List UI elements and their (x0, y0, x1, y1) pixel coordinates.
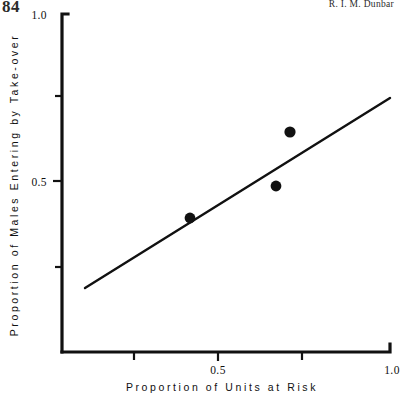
x-axis-title: Proportion of Units at Risk (126, 381, 318, 393)
data-point (284, 126, 295, 137)
data-point (271, 181, 282, 192)
regression-line (85, 98, 390, 288)
x-tick-label-0.5: 0.5 (210, 364, 226, 376)
y-axis-title: Proportion of Males Entering by Take-ove… (8, 34, 20, 337)
x-tick-label-1.0: 1.0 (384, 364, 400, 376)
figure-page: 84 R. I. M. Dunbar 1.0 0.5 0.5 1.0 (0, 0, 400, 399)
y-tick-label-0.5: 0.5 (31, 176, 47, 188)
y-tick-label-1.0: 1.0 (31, 9, 47, 21)
x-axis-line (62, 344, 390, 352)
plot-svg: 1.0 0.5 0.5 1.0 Proportion of Units at R… (0, 0, 400, 399)
y-axis-line (62, 14, 68, 352)
data-point (185, 213, 196, 224)
scatter-plot-figure: 1.0 0.5 0.5 1.0 Proportion of Units at R… (0, 0, 400, 399)
